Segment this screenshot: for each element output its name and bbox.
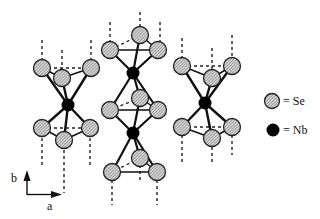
se-atom: [174, 119, 191, 136]
se-atom: [54, 70, 71, 87]
se-atom: [132, 150, 149, 167]
se-atom: [150, 42, 167, 59]
nb-atom: [127, 67, 140, 80]
a-axis-arrowhead-icon: [51, 191, 62, 198]
legend-nb-label: = Nb: [283, 123, 307, 137]
se-atom: [204, 70, 221, 87]
se-atom: [224, 119, 241, 136]
nb-atom: [199, 97, 212, 110]
se-atom: [102, 102, 119, 119]
se-atom: [224, 58, 241, 75]
se-atom: [102, 42, 119, 59]
se-atom: [150, 102, 167, 119]
b-axis-label: b: [11, 171, 17, 185]
se-atom: [149, 164, 166, 181]
b-axis-arrowhead-icon: [24, 170, 31, 181]
se-atom: [132, 27, 149, 44]
legend-se-icon: [265, 94, 280, 109]
se-atom: [83, 60, 100, 77]
axis-indicator: b a: [11, 170, 62, 213]
se-atom: [104, 164, 121, 181]
nb-atom: [127, 127, 140, 140]
se-atom: [132, 90, 149, 107]
nb-atom: [62, 99, 75, 112]
se-atom: [174, 58, 191, 75]
se-atom: [56, 132, 73, 149]
legend: = Se = Nb: [265, 94, 308, 138]
nbse2-structure-diagram: = Se = Nb b a: [0, 0, 320, 219]
se-atom: [34, 120, 51, 137]
se-atom: [34, 60, 51, 77]
se-atom: [204, 130, 221, 147]
legend-nb-icon: [267, 124, 280, 137]
legend-se-label: = Se: [283, 94, 305, 108]
se-atom: [82, 120, 99, 137]
a-axis-label: a: [47, 199, 53, 213]
